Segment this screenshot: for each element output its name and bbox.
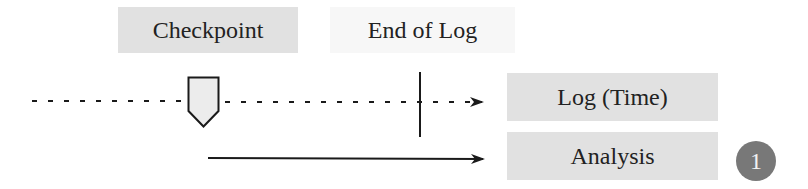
step-number-badge: 1 [736,141,776,181]
analysis-arrow [208,158,483,159]
step-number-text: 1 [750,148,762,175]
checkpoint-marker-icon [189,78,219,127]
diagram-lines [0,0,808,189]
